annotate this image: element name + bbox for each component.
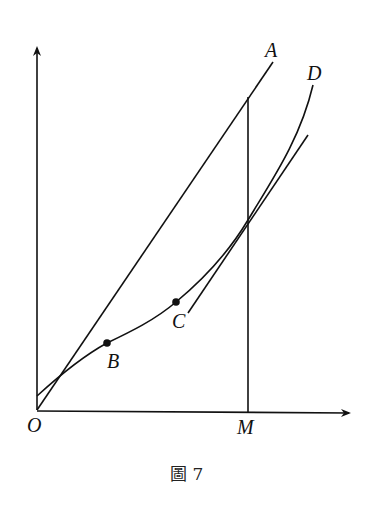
label-b: B [107, 350, 119, 372]
point-b-dot [103, 339, 111, 347]
label-o: O [27, 414, 41, 436]
figure-caption: 圖 7 [170, 464, 203, 484]
label-m: M [236, 416, 255, 438]
diagram-canvas: A D B C O M 圖 7 [0, 0, 366, 518]
label-c: C [172, 310, 186, 332]
label-a: A [263, 39, 278, 61]
label-d: D [306, 62, 322, 84]
point-c-dot [172, 298, 180, 306]
x-axis [37, 411, 349, 413]
